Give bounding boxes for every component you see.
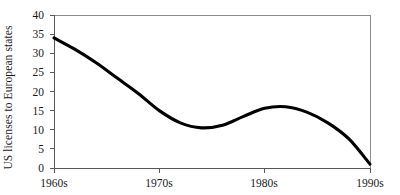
y-tick-label-20: 20	[22, 86, 44, 98]
x-tick-marks	[54, 168, 370, 173]
y-tick-label-5: 5	[22, 143, 44, 155]
x-tick-label-1980s: 1980s	[250, 177, 277, 189]
data-series-line	[54, 38, 370, 164]
x-tick-label-1960s: 1960s	[40, 177, 67, 189]
y-tick-label-35: 35	[22, 28, 44, 40]
y-tick-label-25: 25	[22, 66, 44, 78]
x-tick-label-1970s: 1970s	[145, 177, 172, 189]
line-chart: US licenses to European states	[0, 0, 400, 195]
y-tick-label-0: 0	[22, 162, 44, 174]
x-tick-label-1990s: 1990s	[356, 177, 383, 189]
y-tick-label-40: 40	[22, 9, 44, 21]
y-tick-label-15: 15	[22, 105, 44, 117]
plot-area	[0, 0, 400, 195]
y-tick-label-10: 10	[22, 124, 44, 136]
y-tick-label-30: 30	[22, 47, 44, 59]
